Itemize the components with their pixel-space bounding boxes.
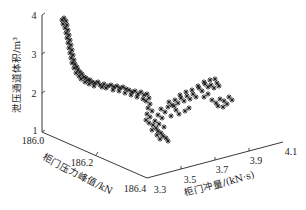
- data-point-marker: [207, 77, 212, 82]
- y-axis-line: [42, 132, 147, 178]
- x-tick-label: 3.3: [154, 184, 167, 195]
- x-tick-label: 3.7: [216, 164, 229, 175]
- y-axis-tick-labels: 186.0 186.2 186.4: [22, 135, 147, 194]
- data-point-marker: [159, 115, 164, 120]
- z-tick-label: 4: [32, 10, 37, 21]
- data-points: [59, 15, 234, 143]
- z-axis-title: 泄压通道体积/m³: [11, 37, 22, 113]
- data-point-marker: [220, 104, 225, 109]
- data-point-marker: [176, 111, 181, 116]
- data-point-marker: [158, 106, 163, 111]
- z-tick-label: 2: [32, 88, 37, 99]
- data-point-marker: [209, 97, 214, 102]
- data-point-marker: [189, 87, 194, 92]
- x-tick-label: 3.5: [184, 174, 197, 185]
- y-tick-label: 186.0: [22, 135, 45, 146]
- data-point-marker: [201, 94, 206, 99]
- data-point-marker: [155, 112, 160, 117]
- data-point-marker: [156, 121, 161, 126]
- data-point-marker: [182, 108, 187, 113]
- data-point-marker: [168, 113, 173, 118]
- scatter-3d-chart: 4 3 2 1 186.0 186.2 186.4 3.3 3.5 3.7 3.…: [0, 0, 306, 210]
- data-point-marker: [122, 90, 127, 95]
- x-tick-label: 4.1: [285, 146, 298, 157]
- data-point-marker: [183, 89, 188, 94]
- y-axis-ticks: [96, 152, 98, 155]
- data-point-marker: [162, 109, 167, 114]
- data-point-marker: [161, 124, 166, 129]
- y-tick-label: 186.4: [124, 183, 147, 194]
- z-axis-tick-labels: 4 3 2 1: [32, 10, 38, 136]
- data-point-marker: [186, 105, 191, 110]
- z-tick-label: 3: [32, 49, 37, 60]
- data-point-marker: [205, 91, 210, 96]
- x-tick-label: 3.9: [250, 155, 263, 166]
- data-point-marker: [149, 108, 154, 113]
